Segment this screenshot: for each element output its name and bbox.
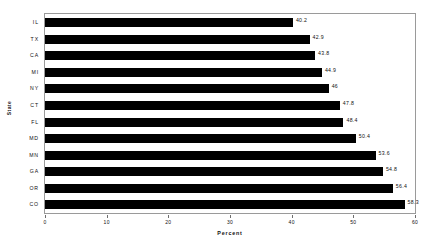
bar-row: 44.9: [45, 64, 415, 81]
bar-row: 43.8: [45, 47, 415, 64]
y-axis-tick-label: OR: [0, 180, 39, 197]
x-axis-tick-label: 50: [350, 219, 356, 225]
bar-value-label: 44.9: [325, 66, 336, 75]
bar: [45, 167, 383, 176]
x-axis-tick-mark: [292, 215, 293, 218]
bar-value-label: 42.9: [313, 33, 324, 42]
x-axis-ticks: 0102030405060: [45, 215, 415, 227]
bar: [45, 200, 405, 209]
bar-row: 50.4: [45, 130, 415, 147]
y-axis-tick-label: NY: [0, 80, 39, 97]
bar-value-label: 47.8: [343, 99, 354, 108]
bar-row: 46: [45, 80, 415, 97]
y-axis-tick-label: IL: [0, 14, 39, 31]
bar-value-label: 56.4: [396, 182, 407, 191]
x-axis-tick-mark: [415, 215, 416, 218]
bar-value-label: 58.3: [408, 198, 419, 207]
bar-value-label: 53.6: [379, 149, 390, 158]
bar-value-label: 46: [332, 82, 338, 91]
x-axis-tick-label: 20: [165, 219, 171, 225]
x-axis-tick-mark: [168, 215, 169, 218]
x-axis-tick-label: 10: [104, 219, 110, 225]
bar-value-label: 54.8: [386, 165, 397, 174]
x-axis-tick-mark: [107, 215, 108, 218]
bars-layer: 40.242.943.844.94647.848.450.453.654.856…: [45, 14, 415, 213]
y-axis-tick-label: MN: [0, 147, 39, 164]
x-axis-tick-label: 30: [227, 219, 233, 225]
bar: [45, 84, 329, 93]
bar-value-label: 40.2: [296, 16, 307, 25]
y-axis-tick-label: CT: [0, 97, 39, 114]
bar-row: 48.4: [45, 114, 415, 131]
bar-row: 47.8: [45, 97, 415, 114]
y-axis-tick-label: MD: [0, 130, 39, 147]
bar: [45, 101, 340, 110]
y-axis-tick-label: FL: [0, 114, 39, 131]
bar: [45, 151, 376, 160]
bar-row: 56.4: [45, 180, 415, 197]
y-axis-tick-label: MI: [0, 64, 39, 81]
x-axis-tick-mark: [353, 215, 354, 218]
y-axis-tick-label: TX: [0, 31, 39, 48]
x-axis-tick-mark: [45, 215, 46, 218]
y-axis-tick-label: CA: [0, 47, 39, 64]
bar: [45, 18, 293, 27]
x-axis-tick-label: 40: [289, 219, 295, 225]
bar-value-label: 43.8: [318, 49, 329, 58]
bar: [45, 51, 315, 60]
y-axis-tick-label: GA: [0, 163, 39, 180]
bar-row: 42.9: [45, 31, 415, 48]
bar-row: 40.2: [45, 14, 415, 31]
bar-chart: State ILTXCAMINYCTFLMDMNGAORCO 40.242.94…: [0, 0, 432, 250]
bar: [45, 35, 310, 44]
bar-value-label: 48.4: [346, 116, 357, 125]
x-axis-tick-label: 0: [43, 219, 46, 225]
bar-row: 58.3: [45, 196, 415, 213]
bar: [45, 118, 343, 127]
bar-value-label: 50.4: [359, 132, 370, 141]
bar: [45, 68, 322, 77]
x-axis-tick-label: 60: [412, 219, 418, 225]
bar-row: 53.6: [45, 147, 415, 164]
bar: [45, 134, 356, 143]
x-axis-title: Percent: [44, 230, 416, 236]
bar: [45, 184, 393, 193]
x-axis-tick-mark: [230, 215, 231, 218]
bar-row: 54.8: [45, 163, 415, 180]
y-axis-tick-label: CO: [0, 196, 39, 213]
